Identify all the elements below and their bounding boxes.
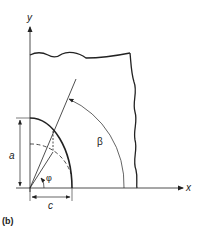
phi-arc [41,178,44,188]
beta-label: β [97,136,103,147]
specimen-top-boundary [30,52,130,58]
specimen-right-boundary [130,53,137,188]
panel-label: (b) [2,216,14,226]
dimension-a-label: a [9,150,15,161]
x-axis-label: x [185,182,192,193]
y-axis-label: y [26,12,33,23]
phi-label: φ [46,173,52,183]
crack-geometry-diagram: y x a c φ β (b) [0,0,203,235]
dimension-c-label: c [48,200,53,211]
ray-line [30,79,76,188]
